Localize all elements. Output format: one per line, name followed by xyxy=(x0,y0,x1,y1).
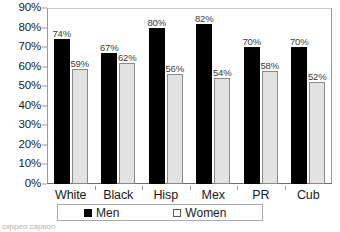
y-axis-tick-label: 10% xyxy=(19,159,41,171)
x-axis-category-label: Cub xyxy=(285,186,333,204)
bar-slot: 54% xyxy=(214,78,230,184)
bar-value-label: 58% xyxy=(261,61,279,71)
bar-women: 62% xyxy=(119,63,135,184)
bar-group: 70%52% xyxy=(285,8,333,184)
bar-slot: 62% xyxy=(119,63,135,184)
y-axis-tick-label: 20% xyxy=(19,139,41,151)
bar-group: 82%54% xyxy=(190,8,238,184)
bar-slot: 70% xyxy=(244,47,260,184)
bar-slot: 70% xyxy=(291,47,307,184)
legend-swatch-men-icon xyxy=(84,209,92,217)
x-axis-tick-mark xyxy=(142,186,143,190)
legend-item-men: Men xyxy=(84,206,119,220)
bar-men: 80% xyxy=(149,28,165,184)
x-axis-category-label: Mex xyxy=(190,186,238,204)
chart-legend: Men Women xyxy=(57,204,263,221)
x-axis-tick-mark xyxy=(237,186,238,190)
figure-caption: clipped caption xyxy=(0,225,340,232)
bar-slot: 74% xyxy=(54,39,70,184)
bar-women: 58% xyxy=(262,71,278,184)
bar-women: 56% xyxy=(167,74,183,184)
y-axis-tick-label: 40% xyxy=(19,100,41,112)
bar-value-label: 52% xyxy=(308,72,326,82)
bar-men: 74% xyxy=(54,39,70,184)
bar-group: 70%58% xyxy=(237,8,285,184)
y-axis-tick-label: 0% xyxy=(25,178,41,190)
bar-men: 70% xyxy=(291,47,307,184)
bar-slot: 82% xyxy=(196,24,212,184)
x-axis-tick-mark xyxy=(95,186,96,190)
legend-label-men: Men xyxy=(96,206,119,220)
bar-slot: 56% xyxy=(167,74,183,184)
figure-caption-text: clipped caption xyxy=(2,225,55,232)
bar-slot: 80% xyxy=(149,28,165,184)
bar-value-label: 54% xyxy=(213,68,231,78)
bar-women: 59% xyxy=(72,69,88,184)
y-axis-tick-label: 80% xyxy=(19,22,41,34)
bar-chart-figure: 90%80%70%60%50%40%30%20%10%0% 74%59%67%6… xyxy=(0,0,340,232)
bar-men: 82% xyxy=(196,24,212,184)
y-axis-tick-label: 70% xyxy=(19,41,41,53)
plot-area: 74%59%67%62%80%56%82%54%70%58%70%52% xyxy=(47,8,332,184)
bar-group: 74%59% xyxy=(47,8,95,184)
bar-women: 52% xyxy=(309,82,325,184)
bar-value-label: 80% xyxy=(148,18,166,28)
legend-item-women: Women xyxy=(173,206,226,220)
bar-value-label: 74% xyxy=(53,29,71,39)
x-axis-category-label: Black xyxy=(95,186,143,204)
bar-slot: 59% xyxy=(72,69,88,184)
y-axis-tick-label: 90% xyxy=(19,2,41,14)
x-axis: WhiteBlackHispMexPRCub xyxy=(47,186,332,204)
bar-slot: 52% xyxy=(309,82,325,184)
x-axis-category-label: Hisp xyxy=(142,186,190,204)
legend-swatch-women-icon xyxy=(173,209,181,217)
bar-value-label: 59% xyxy=(71,59,89,69)
bar-slot: 58% xyxy=(262,71,278,184)
bar-men: 70% xyxy=(244,47,260,184)
bar-women: 54% xyxy=(214,78,230,184)
y-axis: 90%80%70%60%50%40%30%20%10%0% xyxy=(0,8,47,184)
x-axis-category-label: PR xyxy=(237,186,285,204)
bar-value-label: 62% xyxy=(118,53,136,63)
legend-label-women: Women xyxy=(185,206,226,220)
bar-value-label: 82% xyxy=(195,14,213,24)
bar-value-label: 56% xyxy=(166,64,184,74)
bar-value-label: 70% xyxy=(290,37,308,47)
bar-men: 67% xyxy=(101,53,117,184)
bar-value-label: 67% xyxy=(100,43,118,53)
x-axis-tick-mark xyxy=(285,186,286,190)
bars-layer: 74%59%67%62%80%56%82%54%70%58%70%52% xyxy=(47,8,332,184)
bar-value-label: 70% xyxy=(243,37,261,47)
x-axis-category-label: White xyxy=(47,186,95,204)
y-axis-tick-label: 60% xyxy=(19,61,41,73)
bar-group: 67%62% xyxy=(95,8,143,184)
y-axis-tick-label: 30% xyxy=(19,120,41,132)
y-axis-tick-label: 50% xyxy=(19,80,41,92)
bar-slot: 67% xyxy=(101,53,117,184)
x-axis-tick-mark xyxy=(190,186,191,190)
bar-group: 80%56% xyxy=(142,8,190,184)
